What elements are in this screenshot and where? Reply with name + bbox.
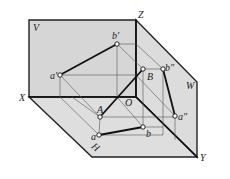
point-b-prime [115,42,119,46]
label-Y: Y [200,152,207,163]
label-a-double-prime: a" [178,111,188,122]
label-O: O [125,97,132,108]
point-a-double-prime [173,114,177,118]
point-A [98,115,102,119]
projection-diagram: V Z W X O Y H a' b' A B b" a" a b [0,0,230,179]
label-A: A [96,104,104,115]
point-a-prime [58,73,62,77]
label-b-double-prime: b" [165,62,175,73]
point-B [141,67,145,71]
point-a [97,133,101,137]
label-X: X [18,92,26,103]
label-Z: Z [138,9,144,20]
label-a-prime: a' [50,70,58,81]
label-B: B [147,71,153,82]
point-b [141,125,145,129]
v-plane [29,20,136,97]
label-a: a [91,131,96,142]
label-b-prime: b' [112,30,120,41]
label-b: b [146,128,151,139]
